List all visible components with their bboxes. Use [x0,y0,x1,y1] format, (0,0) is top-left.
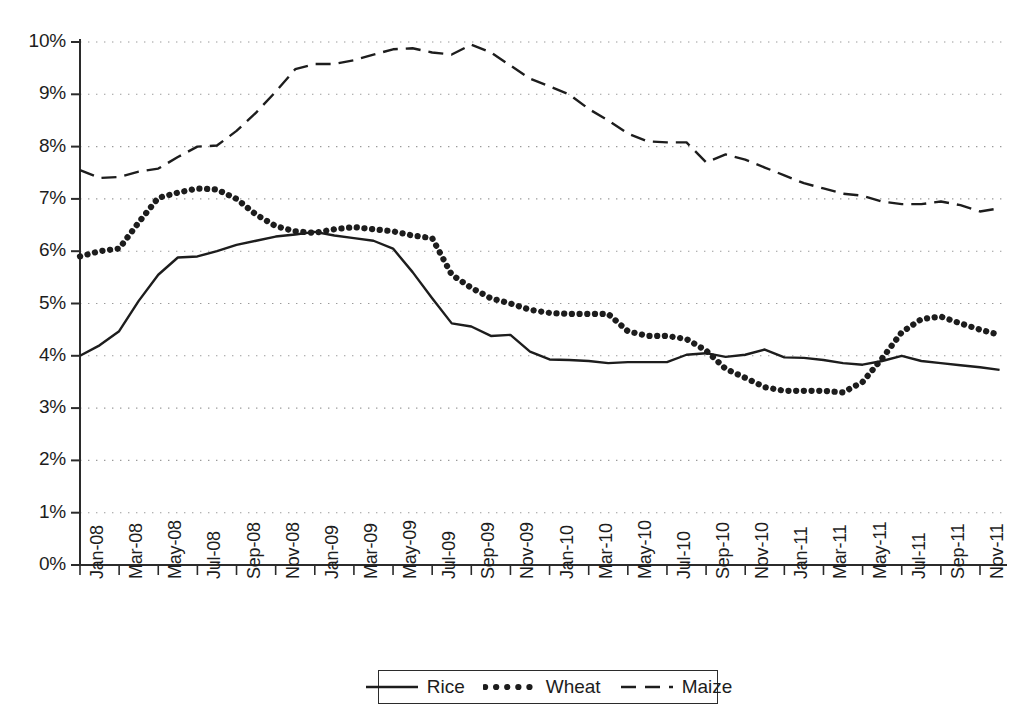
legend-swatch-solid-icon [364,680,420,694]
x-axis-tick-label: Sep-09 [478,522,499,579]
x-axis-tick-label: Jul-11 [909,533,930,580]
x-axis-tick-label: Nov-10 [752,522,773,579]
chart-container: 0%1%2%3%4%5%6%7%8%9%10% Jan-08Mar-08May-… [0,0,1019,724]
series-line-rice [80,232,1000,370]
x-axis-tick-label: Jul-09 [439,531,460,579]
y-axis-tick-label: 9% [39,82,66,104]
x-axis-tick-label: Jul-10 [674,531,695,579]
line-chart-plot [0,0,1019,724]
x-axis-tick-label: Jan-09 [322,525,343,579]
x-axis-tick-label: Mar-11 [830,525,851,579]
x-axis-tick-label: Nov-08 [283,522,304,579]
x-axis-tick-label: Sep-10 [713,522,734,579]
x-axis-tick-label: Jan-08 [87,525,108,579]
y-axis-tick-label: 2% [39,448,66,470]
x-axis-tick-label: Nov-09 [517,522,538,579]
x-axis-tick-label: May-09 [400,520,421,579]
y-axis-tick-label: 7% [39,187,66,209]
y-axis-tick-label: 5% [39,292,66,314]
x-axis-tick-label: May-10 [635,520,656,579]
series-line-maize [80,45,1000,212]
legend-item-wheat: Wheat [474,676,610,698]
y-axis-tick-label: 10% [29,30,66,52]
y-axis-tick-label: 8% [39,135,66,157]
x-axis-tick-label: May-08 [165,520,186,579]
x-axis-tick-label: Jan-10 [557,525,578,579]
legend-swatch-dashed-icon [619,680,675,694]
series-line-wheat [80,188,1000,392]
legend-label: Wheat [546,676,601,698]
legend-label: Maize [682,676,733,698]
legend-item-rice: Rice [355,676,474,698]
x-axis-tick-label: Sep-11 [948,523,969,579]
legend-label: Rice [427,676,465,698]
legend-item-maize: Maize [610,676,742,698]
x-axis-tick-label: Mar-08 [126,523,147,579]
y-axis-tick-label: 1% [39,501,66,523]
chart-legend: RiceWheatMaize [378,670,718,704]
x-axis-tick-label: Sep-08 [244,522,265,579]
x-axis-tick-label: Mar-10 [596,523,617,579]
x-axis-tick-label: May-11 [870,522,891,580]
x-axis-tick-label: Mar-09 [361,523,382,579]
x-axis-tick-label: Jan-11 [791,526,812,579]
x-axis-tick-label: Jul-08 [204,531,225,579]
y-axis-tick-label: 4% [39,344,66,366]
y-axis-tick-label: 3% [39,396,66,418]
legend-swatch-dotted-icon [483,680,539,694]
x-axis-tick-label: Nov-11 [987,524,1008,580]
y-axis-tick-label: 6% [39,239,66,261]
y-axis-tick-label: 0% [39,553,66,575]
